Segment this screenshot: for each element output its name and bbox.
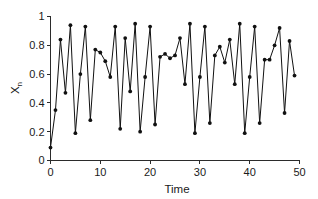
x-tick-label: 40 bbox=[244, 166, 256, 178]
data-point-marker bbox=[64, 91, 68, 95]
data-point-marker bbox=[203, 25, 207, 29]
y-tick-label: 0.8 bbox=[29, 39, 44, 51]
data-point-marker bbox=[83, 25, 87, 29]
data-point-marker bbox=[293, 74, 297, 78]
data-point-marker bbox=[118, 127, 122, 131]
data-point-marker bbox=[69, 23, 73, 27]
data-point-marker bbox=[108, 75, 112, 79]
data-point-marker bbox=[153, 123, 157, 127]
x-tick-label: 0 bbox=[47, 166, 53, 178]
data-point-marker bbox=[263, 58, 267, 62]
x-tick-label: 10 bbox=[94, 166, 106, 178]
x-axis-title: Time bbox=[164, 183, 189, 195]
data-point-marker bbox=[88, 118, 92, 122]
data-point-marker bbox=[173, 53, 177, 57]
data-point-marker bbox=[163, 52, 167, 56]
data-point-marker bbox=[59, 38, 63, 42]
y-tick-label: 0.2 bbox=[29, 126, 44, 138]
data-point-marker bbox=[228, 38, 232, 42]
y-axis-tick-marks bbox=[47, 17, 51, 161]
data-point-marker bbox=[113, 25, 117, 29]
data-point-marker bbox=[248, 75, 252, 79]
data-point-marker bbox=[253, 25, 257, 29]
data-point-marker bbox=[223, 61, 227, 65]
x-axis-tick-marks bbox=[51, 161, 300, 165]
data-point-marker bbox=[93, 48, 97, 52]
data-point-marker bbox=[158, 55, 162, 59]
data-point-marker bbox=[273, 43, 277, 47]
data-point-marker bbox=[183, 82, 187, 86]
data-point-marker bbox=[258, 121, 262, 125]
data-point-marker bbox=[243, 131, 247, 135]
data-point-marker bbox=[133, 22, 137, 26]
y-tick-label: 0.4 bbox=[29, 97, 44, 109]
x-axis-tick-labels: 01020304050 bbox=[47, 166, 305, 178]
data-point-marker bbox=[78, 72, 82, 76]
data-point-marker bbox=[268, 58, 272, 62]
data-point-marker bbox=[188, 22, 192, 26]
data-point-marker bbox=[208, 121, 212, 125]
data-point-marker bbox=[278, 26, 282, 30]
data-point-marker bbox=[128, 89, 132, 93]
timeseries-plot: 00.20.40.60.81 01020304050 Time Xn bbox=[0, 0, 318, 199]
y-tick-label: 1 bbox=[38, 10, 44, 22]
data-point-marker bbox=[54, 108, 58, 112]
data-point-marker bbox=[143, 75, 147, 79]
data-point-marker bbox=[233, 82, 237, 86]
data-point-marker bbox=[123, 36, 127, 40]
data-point-marker bbox=[168, 56, 172, 60]
data-point-marker bbox=[193, 131, 197, 135]
y-tick-label: 0 bbox=[38, 154, 44, 166]
data-point-marker bbox=[148, 25, 152, 29]
y-axis-title-text: Xn bbox=[9, 82, 24, 94]
data-point-marker bbox=[238, 22, 242, 26]
chart-figure: 00.20.40.60.81 01020304050 Time Xn bbox=[0, 0, 318, 199]
y-axis-title: Xn bbox=[9, 82, 24, 94]
data-point-marker bbox=[178, 36, 182, 40]
data-point-marker bbox=[49, 146, 53, 150]
x-tick-label: 30 bbox=[194, 166, 206, 178]
data-point-marker bbox=[283, 111, 287, 115]
x-tick-label: 50 bbox=[293, 166, 305, 178]
data-point-marker bbox=[218, 45, 222, 49]
data-point-marker bbox=[103, 59, 107, 63]
y-axis-title-subscript: n bbox=[15, 82, 24, 86]
x-tick-label: 20 bbox=[144, 166, 156, 178]
data-point-marker bbox=[74, 131, 78, 135]
data-point-marker bbox=[288, 39, 292, 43]
data-point-marker bbox=[138, 130, 142, 134]
y-axis-tick-labels: 00.20.40.60.81 bbox=[29, 10, 44, 166]
data-point-marker bbox=[98, 51, 102, 55]
data-point-marker bbox=[198, 75, 202, 79]
y-tick-label: 0.6 bbox=[29, 68, 44, 80]
series-line-path bbox=[51, 24, 295, 148]
data-point-marker bbox=[213, 53, 217, 57]
